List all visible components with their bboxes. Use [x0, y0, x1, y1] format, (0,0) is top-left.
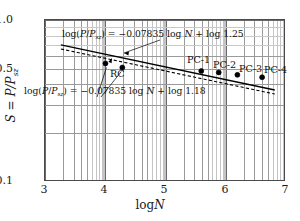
eq-upper-coef: −0.07835 — [118, 28, 167, 39]
x-gridline — [63, 20, 64, 180]
data-label-pc-4: PC-4 — [264, 64, 287, 75]
x-tick-label-3: 5 — [149, 183, 179, 196]
y-tick-label-3: 0.1 — [0, 174, 13, 187]
x-gridline — [156, 20, 157, 180]
y-gridline — [45, 133, 284, 134]
x-gridline — [92, 20, 93, 180]
x-gridline — [220, 20, 221, 180]
figure-canvas: 1.0 0.5 0.1 3 4 5 6 7 logN S = P/Psz log… — [0, 0, 300, 221]
x-gridline — [202, 20, 203, 180]
x-gridline — [194, 20, 195, 180]
x-gridline — [262, 20, 263, 180]
equation-upper-fit: log(P/Psz) = −0.07835 log N + log 1.25 — [62, 29, 244, 40]
eq-upper-const: log 1.25 — [206, 28, 244, 39]
x-gridline — [123, 20, 124, 180]
eq-lower-const: log 1.18 — [168, 85, 206, 96]
plot-area — [44, 19, 285, 181]
x-gridline — [142, 20, 143, 180]
x-gridline — [277, 20, 278, 180]
y-axis-label-subscript: sz — [11, 69, 20, 77]
y-axis-label: S = P/Psz — [4, 56, 19, 136]
x-gridline — [87, 20, 88, 180]
eq-lower-lead: log( — [24, 85, 42, 96]
x-tick-label-5: 7 — [270, 183, 300, 196]
x-gridline-major — [226, 20, 227, 180]
x-tick-label-1: 3 — [29, 183, 59, 196]
x-axis-label-var: N — [154, 198, 165, 212]
x-axis-label: logN — [0, 198, 300, 212]
x-gridline — [273, 20, 274, 180]
x-gridline — [96, 20, 97, 180]
x-gridline — [244, 20, 245, 180]
data-label-rc: RC — [110, 68, 125, 79]
eq-upper-eq: ) = — [101, 28, 118, 39]
y-tick-label-1: 1.0 — [0, 13, 13, 26]
x-axis-label-rm: log — [135, 198, 154, 212]
x-tick-label-2: 4 — [89, 183, 119, 196]
x-gridline-major — [166, 20, 167, 180]
eq-lower-coef: −0.07835 — [80, 85, 129, 96]
equation-lower-fit: log(P/Psz) = −0.07835 log N + log 1.18 — [24, 86, 206, 97]
x-gridline — [268, 20, 269, 180]
y-gridline — [45, 56, 284, 57]
y-gridline — [45, 45, 284, 46]
x-gridline — [208, 20, 209, 180]
y-gridline — [45, 20, 284, 21]
x-gridline — [74, 20, 75, 180]
x-gridline-major — [45, 20, 46, 180]
eq-lower-logn-rm: log — [129, 85, 146, 96]
eq-lower-plus: + — [154, 85, 168, 96]
x-tick-label-4: 6 — [210, 183, 240, 196]
x-gridline — [134, 20, 135, 180]
x-gridline-major — [105, 20, 106, 180]
data-label-pc-1: PC-1 — [187, 54, 210, 65]
data-label-pc-3: PC-3 — [239, 63, 262, 74]
x-gridline-fine — [284, 20, 285, 180]
x-gridline — [254, 20, 255, 180]
x-gridline — [280, 20, 281, 180]
eq-upper-plus: + — [192, 28, 206, 39]
x-gridline — [99, 20, 100, 180]
y-gridline — [45, 105, 284, 106]
x-gridline — [216, 20, 217, 180]
x-gridline — [152, 20, 153, 180]
eq-upper-lead: log( — [62, 28, 80, 39]
x-gridline — [147, 20, 148, 180]
y-axis-label-main: S = P/P — [4, 76, 18, 122]
eq-upper-logn-rm: log — [167, 28, 184, 39]
x-gridline — [212, 20, 213, 180]
x-gridline — [184, 20, 185, 180]
data-label-pc-2: PC-2 — [213, 59, 236, 70]
x-gridline-fine — [284, 20, 285, 180]
eq-lower-eq: ) = — [63, 85, 80, 96]
x-gridline — [81, 20, 82, 180]
x-gridline — [160, 20, 161, 180]
